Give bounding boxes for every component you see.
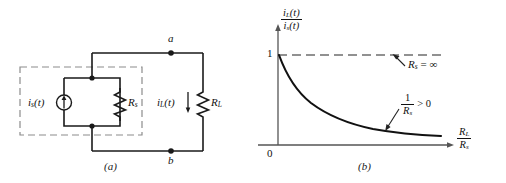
figure-page: is(t) Rs iL(t) RL a b — [0, 0, 506, 183]
load-current-label: iL(t) — [157, 97, 175, 109]
origin-label: 0 — [267, 148, 273, 159]
annotation-finite-rs-denominator: Rs — [401, 104, 414, 117]
node-b-dot — [168, 148, 174, 154]
y-axis-label-denominator: is(t) — [281, 19, 302, 32]
annotation-arrowhead-finite-rs-icon — [385, 124, 390, 131]
node-a-label: a — [168, 33, 174, 44]
annotation-finite-rs-comparator: > 0 — [417, 99, 431, 110]
circuit-svg — [0, 0, 253, 183]
annotation-leader-finite-rs — [387, 109, 399, 128]
circuit-diagram-figure: is(t) Rs iL(t) RL a b — [0, 0, 253, 183]
node-a-dot — [168, 50, 174, 56]
inner-loop-wire — [64, 78, 120, 126]
load-current-arrowhead-icon — [186, 108, 191, 113]
source-current-label: is(t) — [28, 97, 44, 109]
annotation-finite-rs-numerator: 1 — [401, 92, 414, 104]
node-b-label: b — [168, 155, 174, 166]
y-axis-tick-label-one: 1 — [267, 48, 273, 59]
resistor-rs-label: Rs — [128, 97, 138, 109]
caption-b: (b) — [358, 160, 371, 172]
x-axis-label-numerator: RL — [457, 126, 471, 138]
y-axis-label: iL(t) is(t) — [281, 7, 302, 33]
annotation-finite-rs-fraction: 1 Rs — [401, 92, 414, 117]
annotation-rs-infinite-label: Rs = ∞ — [408, 59, 437, 71]
x-axis-label: RL Rs — [457, 126, 471, 152]
x-axis-label-denominator: Rs — [457, 138, 471, 151]
caption-a: (a) — [104, 160, 117, 172]
transfer-ratio-plot-figure: iL(t) is(t) RL Rs 1 0 Rs = ∞ 1 Rs > 0 — [253, 0, 506, 183]
y-axis-arrowhead-icon — [275, 24, 281, 31]
annotation-finite-rs-group: 1 Rs > 0 — [401, 92, 431, 117]
x-axis-arrowhead-icon — [447, 142, 454, 148]
resistor-rl-label: RL — [211, 97, 222, 109]
y-axis-label-numerator: iL(t) — [281, 7, 302, 19]
